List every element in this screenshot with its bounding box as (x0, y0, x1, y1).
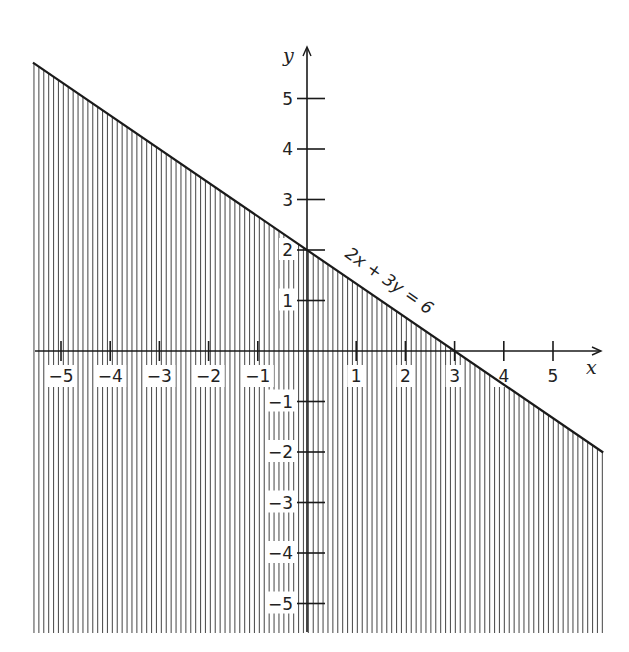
y-tick-label: 2 (282, 240, 293, 260)
y-tick-label: 1 (282, 291, 293, 311)
x-tick-label: −4 (98, 366, 123, 386)
x-tick-label: −3 (147, 366, 172, 386)
x-tick-label: 2 (400, 366, 411, 386)
y-tick-label: 3 (282, 190, 293, 210)
y-tick-label: −3 (268, 493, 293, 513)
y-tick-label: 4 (282, 139, 293, 159)
x-axis-label: x (586, 356, 597, 378)
y-tick-label: −2 (268, 442, 293, 462)
x-tick-label: −1 (245, 366, 270, 386)
y-tick-label: −4 (268, 543, 293, 563)
x-tick-label: −2 (196, 366, 221, 386)
x-tick-label: −5 (48, 366, 73, 386)
x-tick-label: 1 (351, 366, 362, 386)
x-tick-label: 4 (498, 366, 509, 386)
y-axis-label: y (282, 44, 294, 66)
y-tick-label: 5 (282, 89, 293, 109)
y-tick-label: −1 (268, 392, 293, 412)
y-tick-label: −5 (268, 594, 293, 614)
shaded-region-hatching (34, 0, 602, 633)
inequality-graph: −5−4−3−2−11234554321−1−2−3−4−5 x y 2x + … (0, 0, 629, 652)
x-tick-label: 3 (449, 366, 460, 386)
x-tick-label: 5 (548, 366, 559, 386)
